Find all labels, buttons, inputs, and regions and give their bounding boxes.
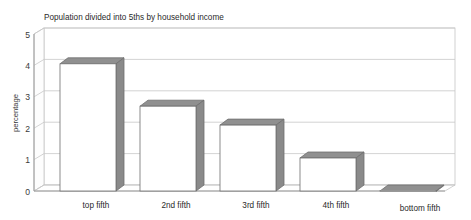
bar-front-face [380, 190, 436, 191]
x-label-bottom-fifth: bottom fifth [400, 204, 441, 213]
chart-canvas: Population divided into 5ths by househol… [0, 0, 471, 220]
bar-2nd-fifth[interactable] [140, 100, 204, 191]
x-label-top-fifth: top fifth [83, 201, 110, 210]
bar-top-face [60, 58, 124, 64]
bar-side-face [116, 58, 124, 191]
bar-top-fifth[interactable] [60, 58, 124, 191]
chart-title: Population divided into 5ths by househol… [44, 13, 224, 22]
bar-front-face [60, 64, 116, 191]
bar-top-face [220, 119, 284, 125]
bar-chart-figure: Population divided into 5ths by househol… [0, 0, 471, 220]
x-label-3rd-fifth: 3rd fifth [242, 201, 270, 210]
bar-front-face [220, 125, 276, 191]
bar-bottom-fifth[interactable] [380, 185, 444, 192]
bar-top-face [140, 100, 204, 106]
bar-4th-fifth[interactable] [300, 152, 364, 191]
bar-side-face [196, 100, 204, 191]
y-tick-0: 0 [25, 187, 30, 197]
y-tick-4: 4 [25, 61, 30, 71]
plot-left-wall [34, 28, 44, 191]
bar-3rd-fifth[interactable] [220, 119, 284, 191]
y-tick-3: 3 [25, 92, 30, 102]
x-label-2nd-fifth: 2nd fifth [161, 201, 191, 210]
bar-side-face [356, 152, 364, 191]
bar-front-face [140, 106, 196, 191]
plot-area [34, 28, 455, 192]
y-tick-1: 1 [25, 155, 30, 165]
y-axis-title: percentage [11, 94, 20, 132]
bar-front-face [300, 158, 356, 191]
y-tick-5: 5 [25, 30, 30, 40]
bar-top-face [300, 152, 364, 158]
x-label-4th-fifth: 4th fifth [323, 201, 350, 210]
y-tick-2: 2 [25, 124, 30, 134]
bar-side-face [276, 119, 284, 191]
